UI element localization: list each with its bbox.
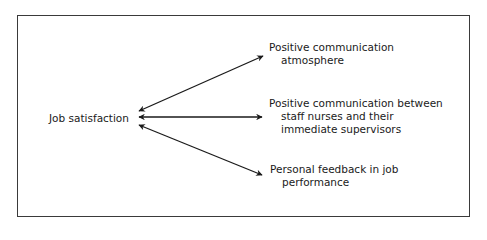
target-feedback: Personal feedback in job performance [270,163,398,189]
target-supervisors-line3: immediate supervisors [269,123,443,136]
target-feedback-line2: performance [270,176,398,189]
arrow-to-atmosphere [139,56,263,111]
target-supervisors-line1: Positive communication between [269,97,443,109]
target-atmosphere: Positive communication atmosphere [269,41,394,67]
arrow-to-feedback [139,125,262,175]
target-atmosphere-line1: Positive communication [269,41,394,53]
target-supervisors: Positive communication between staff nur… [269,97,443,136]
target-supervisors-line2: staff nurses and their [269,110,443,123]
target-feedback-line1: Personal feedback in job [270,163,398,175]
job-satisfaction-label: Job satisfaction [49,112,129,125]
target-atmosphere-line2: atmosphere [269,54,394,67]
